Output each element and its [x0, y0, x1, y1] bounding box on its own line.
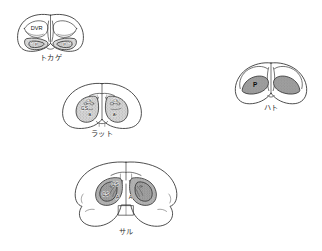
label-rat-a-right: A — [113, 112, 116, 117]
label-rat-cs-left-upper: CS — [86, 98, 92, 103]
label-lizard-right-p: P — [63, 42, 66, 47]
panel-monkey: CS CS A A サル — [70, 158, 182, 246]
label-monkey-cs-left-lower: CS — [102, 191, 110, 197]
label-lizard-left-p: P — [35, 42, 38, 47]
label-rat-a-left: A — [88, 112, 91, 117]
label-monkey-a-right: A — [129, 194, 133, 200]
panel-lizard: DVR * P * P トカゲ — [12, 8, 90, 70]
label-pigeon-p: P — [253, 81, 258, 88]
label-rat-cs-left-lower: CS — [81, 105, 89, 111]
caption-monkey: サル — [70, 228, 182, 235]
panel-pigeon: P ハト — [228, 58, 314, 122]
caption-lizard: トカゲ — [12, 54, 90, 61]
label-dvr: DVR — [31, 25, 43, 31]
caption-rat: ラット — [56, 130, 148, 137]
caption-pigeon: ハト — [228, 104, 314, 111]
panel-rat: CS CS A CS A ラット — [56, 78, 148, 146]
label-rat-cs-right-upper: CS — [112, 98, 118, 103]
label-monkey-a-left: A — [116, 194, 120, 200]
label-monkey-cs-left-upper: CS — [111, 181, 119, 187]
comparative-brain-figure: DVR * P * P トカゲ — [0, 0, 322, 251]
